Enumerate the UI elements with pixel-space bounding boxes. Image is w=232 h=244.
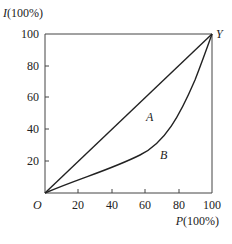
region-b-label: B [160,148,168,162]
y-tick-labels: 20 40 60 80 100 [21,27,39,168]
y-tick-label: 80 [27,59,39,73]
x-axis-title: P(100%) [175,214,219,228]
x-axis-unit: (100%) [183,214,219,228]
origin-label: O [33,198,42,212]
x-tick-label: 80 [173,198,185,212]
x-tick-labels: 20 40 60 80 100 [72,198,221,212]
y-tick-label: 60 [27,90,39,104]
y-tick-label: 100 [21,27,39,41]
x-tick-label: 100 [203,198,221,212]
equality-line [45,34,212,193]
x-ticks [78,189,179,193]
y-axis-unit: (100%) [7,6,43,20]
x-tick-label: 40 [106,198,118,212]
region-a-label: A [145,110,154,124]
y-axis-title: I(100%) [2,6,43,20]
x-tick-label: 60 [139,198,151,212]
lorenz-chart: 20 40 60 80 100 20 40 60 80 100 O I(100%… [0,0,232,244]
y-tick-label: 40 [27,122,39,136]
y-tick-label: 20 [27,154,39,168]
endpoint-label: Y [216,27,224,41]
y-ticks [45,66,49,161]
x-tick-label: 20 [72,198,84,212]
